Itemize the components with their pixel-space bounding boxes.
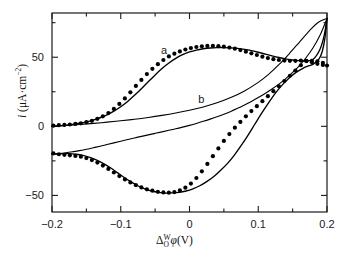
data-point — [211, 154, 215, 158]
data-point — [134, 84, 138, 88]
data-point — [95, 160, 99, 164]
data-point — [189, 46, 193, 50]
data-point — [178, 49, 182, 53]
data-point — [293, 68, 297, 72]
curve-b-reverse — [52, 19, 327, 155]
data-point — [266, 94, 270, 98]
data-point — [227, 45, 231, 49]
data-point — [73, 122, 77, 126]
data-point — [156, 62, 160, 66]
data-point — [205, 162, 209, 166]
data-point — [84, 120, 88, 124]
data-point — [205, 44, 209, 48]
data-point — [101, 163, 105, 167]
data-point — [128, 180, 132, 184]
data-point — [277, 84, 281, 88]
data-point — [277, 58, 281, 62]
y-axis-label-close: ) — [16, 64, 28, 68]
data-point — [244, 114, 248, 118]
data-point — [238, 48, 242, 52]
data-point — [90, 119, 94, 123]
data-point — [145, 187, 149, 191]
data-point — [233, 126, 237, 130]
data-point — [84, 156, 88, 160]
y-axis-label-open: ( — [16, 108, 28, 115]
x-tick-label: 0 — [186, 218, 192, 230]
data-point — [255, 53, 259, 57]
data-point — [194, 45, 198, 49]
data-point — [299, 63, 303, 67]
curve-label-b: b — [198, 93, 204, 105]
y-axis-label-symbol: i — [16, 115, 28, 118]
curve-b-forward — [52, 19, 327, 127]
data-point — [249, 51, 253, 55]
data-point — [244, 50, 248, 54]
data-point — [106, 111, 110, 115]
data-point — [260, 55, 264, 59]
data-point — [139, 185, 143, 189]
curve-a-reverse — [52, 19, 327, 194]
data-point — [211, 44, 215, 48]
data-point — [150, 67, 154, 71]
data-point — [315, 59, 319, 63]
curve-label-a: a — [161, 44, 168, 56]
data-point — [150, 189, 154, 193]
y-axis-label-unit: μA·cm — [16, 76, 28, 108]
data-point — [106, 167, 110, 171]
data-point — [282, 58, 286, 62]
data-point — [51, 151, 55, 155]
data-point — [161, 58, 165, 62]
data-point — [227, 132, 231, 136]
data-point — [117, 102, 121, 106]
data-point — [282, 79, 286, 83]
data-curves — [52, 19, 327, 194]
y-tick-label: 0 — [38, 120, 44, 132]
data-point — [134, 183, 138, 187]
chart-canvas: −0.2−0.100.10.2500−50 ab — [0, 0, 349, 261]
data-point — [222, 139, 226, 143]
data-point — [249, 109, 253, 113]
data-point — [57, 152, 61, 156]
data-point — [101, 114, 105, 118]
data-points — [51, 44, 329, 195]
data-point — [288, 59, 292, 63]
data-point — [79, 155, 83, 159]
data-point — [200, 44, 204, 48]
curve-annotations: ab — [161, 44, 204, 104]
data-point — [123, 96, 127, 100]
data-point — [222, 45, 226, 49]
y-axis-label-exponent: −2 — [14, 68, 23, 76]
x-tick-label: −0.2 — [41, 218, 63, 230]
data-point — [293, 59, 297, 63]
y-tick-label: −50 — [25, 189, 44, 201]
data-point — [321, 61, 325, 65]
data-point — [288, 74, 292, 78]
data-point — [216, 44, 220, 48]
data-point — [123, 177, 127, 181]
data-point — [57, 123, 61, 127]
data-point — [161, 190, 165, 194]
data-point — [112, 170, 116, 174]
x-axis-label: Δ W O φ(V) — [0, 234, 349, 248]
data-point — [128, 90, 132, 94]
data-point — [62, 123, 66, 127]
data-point — [172, 190, 176, 194]
data-point — [51, 124, 55, 128]
x-axis-label-subscript: O — [163, 241, 170, 248]
x-tick-label: 0.2 — [319, 218, 334, 230]
data-point — [255, 104, 259, 108]
data-point — [139, 78, 143, 82]
y-tick-label: 50 — [32, 51, 44, 63]
data-point — [200, 169, 204, 173]
data-point — [310, 59, 314, 63]
data-point — [90, 158, 94, 162]
data-point — [117, 174, 121, 178]
data-point — [95, 117, 99, 121]
data-point — [194, 176, 198, 180]
data-point — [68, 122, 72, 126]
figure-container: −0.2−0.100.10.2500−50 ab i (μA·cm−2) Δ W… — [0, 0, 349, 261]
data-point — [183, 186, 187, 190]
data-point — [325, 63, 329, 67]
x-tick-label: 0.1 — [251, 218, 266, 230]
data-point — [112, 107, 116, 111]
